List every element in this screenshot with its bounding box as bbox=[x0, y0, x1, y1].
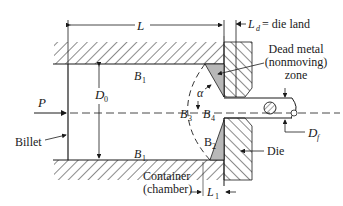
container-bottom bbox=[53, 160, 224, 180]
svg-text:L: L bbox=[247, 17, 255, 31]
die-top bbox=[224, 20, 252, 97]
dimension-Df: D f bbox=[285, 88, 321, 142]
label-B1-top: B bbox=[134, 69, 142, 83]
svg-text:Dead metal: Dead metal bbox=[269, 42, 325, 56]
rod-section-icon bbox=[264, 102, 276, 114]
extrudate-rod bbox=[224, 98, 297, 118]
svg-text:f: f bbox=[317, 133, 321, 142]
force-P: P bbox=[34, 95, 66, 113]
container-label: Container (chamber) bbox=[143, 169, 192, 196]
dimension-D0: D 0 bbox=[94, 66, 108, 158]
angle-alpha: α bbox=[197, 85, 211, 109]
svg-text:1: 1 bbox=[215, 192, 219, 201]
svg-text:Die: Die bbox=[267, 144, 284, 158]
svg-text:3: 3 bbox=[188, 114, 192, 123]
billet-label: Billet bbox=[15, 135, 66, 149]
svg-text:Container: Container bbox=[143, 169, 190, 183]
extrusion-diagram: L L d = die land Dead metal (nonmoving) … bbox=[0, 0, 343, 206]
svg-text:Billet: Billet bbox=[15, 135, 42, 149]
label-L: L bbox=[136, 18, 144, 33]
svg-text:d: d bbox=[256, 24, 261, 33]
svg-text:α: α bbox=[197, 86, 204, 100]
svg-text:(chamber): (chamber) bbox=[143, 182, 192, 196]
label-B4: B bbox=[203, 107, 211, 121]
svg-text:zone: zone bbox=[285, 68, 308, 82]
label-B3: B bbox=[180, 107, 188, 121]
label-B1-bottom: B bbox=[134, 147, 142, 161]
svg-text:1: 1 bbox=[142, 154, 146, 163]
label-B2: B bbox=[204, 135, 212, 149]
dimension-Ld: L d = die land bbox=[236, 17, 310, 33]
svg-text:L: L bbox=[206, 185, 214, 199]
dead-metal-zone-top bbox=[205, 64, 224, 97]
die-bottom bbox=[224, 118, 252, 186]
svg-text:P: P bbox=[37, 95, 46, 110]
svg-text:= die land: = die land bbox=[262, 17, 310, 31]
svg-text:1: 1 bbox=[142, 76, 146, 85]
container-top bbox=[53, 42, 224, 64]
dead-metal-zone-bottom bbox=[210, 120, 224, 160]
svg-text:4: 4 bbox=[211, 114, 215, 123]
svg-text:(nonmoving): (nonmoving) bbox=[265, 55, 328, 69]
svg-text:2: 2 bbox=[212, 142, 216, 151]
svg-text:0: 0 bbox=[104, 95, 108, 104]
